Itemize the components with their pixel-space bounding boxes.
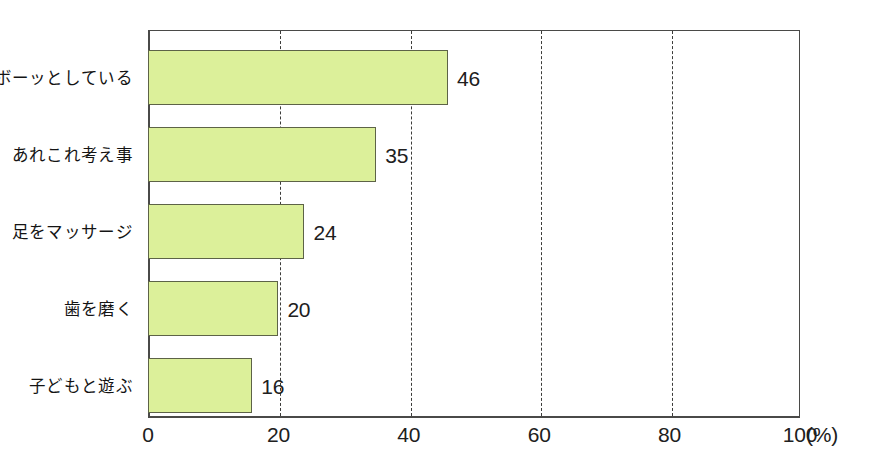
category-label-3: 足をマッサージ — [0, 224, 133, 241]
x-tick-label-60: 60 — [528, 424, 551, 445]
category-label-4: 歯を磨く — [0, 301, 133, 318]
bar-2[interactable] — [148, 127, 376, 182]
clipped-bottom-caption — [0, 461, 871, 467]
bar-value-label: 35 — [385, 144, 408, 165]
bar-3[interactable] — [148, 204, 304, 259]
category-label-2: あれこれ考え事 — [0, 147, 133, 164]
bar-value-label: 16 — [261, 375, 284, 396]
bar-row: 24 — [148, 204, 800, 259]
x-tick-label-0: 0 — [142, 424, 153, 445]
bar-value-label: 46 — [457, 67, 480, 88]
bar-1[interactable] — [148, 50, 448, 105]
x-axis-unit-label: (%) — [806, 424, 838, 445]
bar-row: 46 — [148, 50, 800, 105]
bar-row: 20 — [148, 281, 800, 336]
bar-value-label: 20 — [287, 298, 310, 319]
category-label-5: 子どもと遊ぶ — [0, 378, 133, 395]
x-tick-label-80: 80 — [658, 424, 681, 445]
bar-chart: 46ボーッとしている35あれこれ考え事24足をマッサージ20歯を磨く16子どもと… — [0, 0, 871, 467]
bar-value-label: 24 — [313, 221, 336, 242]
bar-5[interactable] — [148, 358, 252, 413]
category-label-1: ボーッとしている — [0, 70, 133, 87]
x-tick-label-20: 20 — [267, 424, 290, 445]
bar-4[interactable] — [148, 281, 278, 336]
x-tick-label-40: 40 — [397, 424, 420, 445]
bar-row: 16 — [148, 358, 800, 413]
bar-row: 35 — [148, 127, 800, 182]
